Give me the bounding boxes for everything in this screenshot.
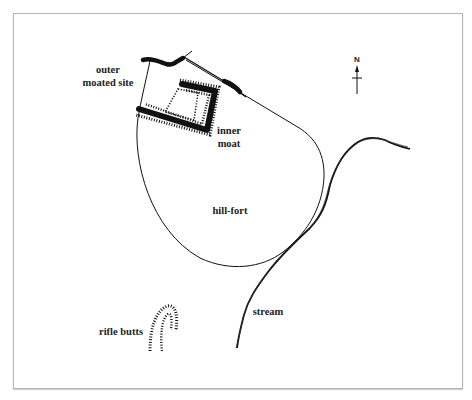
inner-moat — [136, 80, 219, 135]
label-rifle-butts: rifle butts — [94, 325, 148, 338]
rifle-butts-earthwork — [150, 306, 177, 351]
outer-moated-site-boundary — [143, 51, 246, 97]
label-inner-line-1: inner — [208, 124, 250, 137]
label-outer-moated-site: outer moated site — [76, 63, 140, 89]
label-outer-line-2: moated site — [76, 76, 140, 89]
label-outer-line-1: outer — [76, 63, 140, 76]
label-stream: stream — [248, 305, 288, 318]
north-label: N — [354, 56, 360, 64]
hill-fort-outline — [137, 60, 324, 267]
label-inner-moat: inner moat — [208, 124, 250, 150]
north-arrow-icon — [352, 65, 362, 94]
site-plan-drawing — [0, 0, 472, 400]
label-inner-line-2: moat — [208, 137, 250, 150]
label-hill-fort: hill-fort — [205, 204, 255, 217]
